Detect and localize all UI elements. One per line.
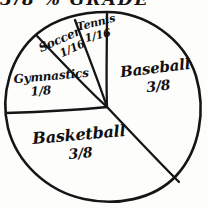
divider-gymnastics-basketball bbox=[6, 107, 107, 113]
slice-fraction-baseball: 3/8 bbox=[146, 77, 172, 94]
slice-fraction-basketball: 3/8 bbox=[68, 145, 93, 161]
pie-chart-figure: 3/8 % GRADE Baseball 3/8 Basketball 3/8 … bbox=[0, 0, 207, 209]
slice-fraction-gymnastics: 1/8 bbox=[30, 84, 51, 98]
